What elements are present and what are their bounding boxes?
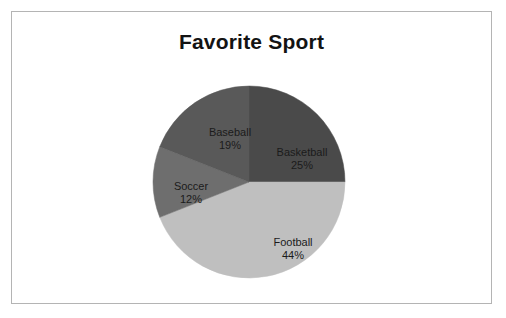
pie-label-basketball: Basketball 25% bbox=[277, 146, 328, 172]
pie-label-soccer-name: Soccer bbox=[174, 180, 208, 193]
chart-frame: Favorite Sport Basketball 25% Football 4… bbox=[11, 11, 492, 304]
pie-chart-svg bbox=[12, 12, 493, 305]
pie-label-football-name: Football bbox=[273, 236, 312, 249]
pie-label-basketball-name: Basketball bbox=[277, 146, 328, 159]
chart-screenshot: Favorite Sport Basketball 25% Football 4… bbox=[0, 0, 506, 318]
pie-label-basketball-value: 25% bbox=[277, 159, 328, 172]
pie-label-football-value: 44% bbox=[273, 249, 312, 262]
pie-label-soccer-value: 12% bbox=[174, 193, 208, 206]
pie-chart-plot-area: Basketball 25% Football 44% Soccer 12% B… bbox=[12, 12, 493, 305]
pie-label-baseball: Baseball 19% bbox=[209, 126, 251, 152]
pie-label-baseball-value: 19% bbox=[209, 139, 251, 152]
pie-label-baseball-name: Baseball bbox=[209, 126, 251, 139]
pie-label-football: Football 44% bbox=[273, 236, 312, 262]
pie-label-soccer: Soccer 12% bbox=[174, 180, 208, 206]
